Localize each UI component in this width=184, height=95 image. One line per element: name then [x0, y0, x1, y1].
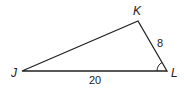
- side-label-jl: 20: [89, 74, 101, 86]
- angle-l-marker: [157, 63, 162, 72]
- vertex-label-k: K: [133, 4, 142, 18]
- triangle-diagram: J K L 8 20: [0, 0, 184, 95]
- triangle-jkl: [22, 21, 167, 71]
- vertex-label-l: L: [171, 66, 178, 80]
- side-label-kl: 8: [157, 37, 163, 49]
- vertex-label-j: J: [10, 66, 18, 80]
